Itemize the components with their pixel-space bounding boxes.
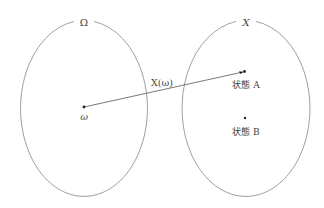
random-variable-diagram: Ω X X(ω) ω 状態 A 状態 B [0, 0, 324, 208]
state-b-label: 状態 B [232, 126, 260, 137]
x-set-ellipse [182, 22, 310, 197]
state-a-point [243, 70, 246, 73]
omega-set-ellipse [21, 22, 148, 197]
omega-point-label: ω [80, 111, 88, 122]
mapping-label: X(ω) [151, 77, 173, 88]
omega-point [83, 106, 86, 109]
x-set-label: X [241, 17, 250, 28]
omega-set-label: Ω [80, 17, 88, 28]
state-b-point [244, 117, 246, 119]
state-a-label: 状態 A [232, 79, 260, 90]
